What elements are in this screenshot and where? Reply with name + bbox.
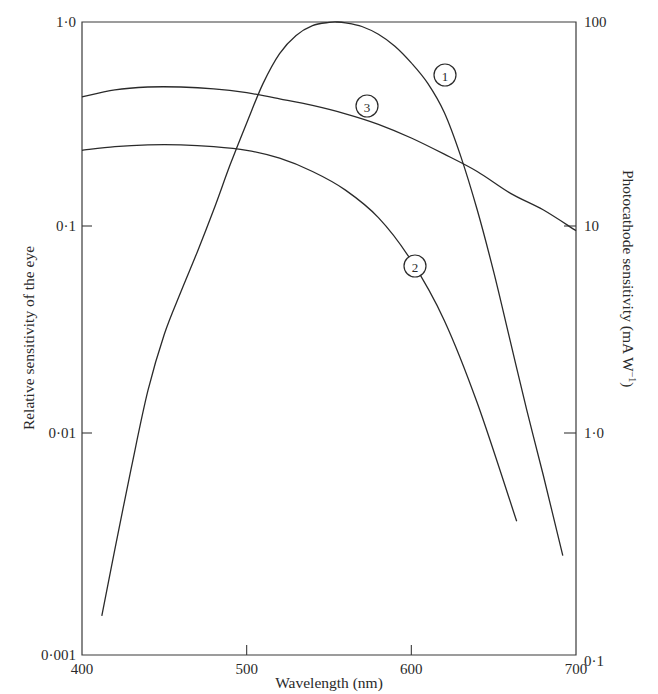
x-tick-label: 500 — [235, 661, 258, 677]
curve-1 — [102, 22, 563, 616]
x-tick-label: 400 — [71, 661, 94, 677]
sensitivity-chart: 400500600700 1·00·10·010·001 100101·00·1… — [0, 0, 658, 694]
y-axis-right-ticks: 100101·00·1 — [564, 14, 607, 669]
curves — [82, 22, 576, 616]
curve-2 — [82, 145, 517, 522]
curve-3 — [82, 87, 576, 231]
y2-tick-label: 1·0 — [584, 425, 604, 441]
y-axis-left-title: Relative sensitivity of the eye — [20, 246, 37, 430]
curve-markers: 123 — [356, 64, 456, 277]
x-axis-title: Wavelength (nm) — [275, 674, 383, 692]
curve-label-1: 1 — [434, 64, 456, 86]
plot-frame — [82, 22, 576, 655]
marker-number: 2 — [412, 260, 419, 275]
y2-tick-label: 0·1 — [584, 653, 604, 669]
y-tick-label: 0·001 — [41, 647, 76, 663]
y2-tick-label: 100 — [584, 14, 607, 30]
curve-label-3: 3 — [356, 95, 378, 117]
marker-number: 1 — [442, 69, 449, 84]
y2-tick-label: 10 — [584, 218, 599, 234]
y-axis-right-title: Photocathode sensitivity (mA W−1) — [619, 170, 638, 387]
curve-label-2: 2 — [404, 255, 426, 277]
y-tick-label: 0·1 — [56, 218, 76, 234]
y-tick-label: 1·0 — [56, 14, 76, 30]
y-tick-label: 0·01 — [49, 425, 77, 441]
marker-number: 3 — [364, 100, 371, 115]
y-axis-left-ticks: 1·00·10·010·001 — [41, 14, 92, 663]
x-axis-ticks: 400500600700 — [71, 645, 588, 677]
x-tick-label: 600 — [400, 661, 423, 677]
